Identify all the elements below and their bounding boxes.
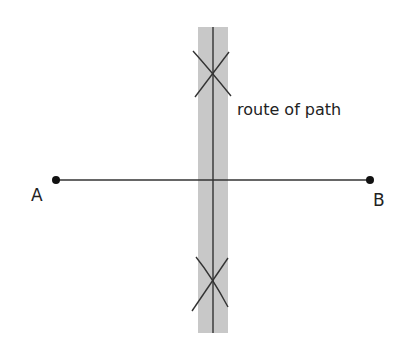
route-label: route of path [237, 100, 341, 119]
point-a-label: A [31, 185, 43, 205]
point-b-label: B [373, 190, 385, 210]
point-a [52, 176, 60, 184]
perpendicular-bisector-diagram [0, 0, 420, 351]
point-b [366, 176, 374, 184]
